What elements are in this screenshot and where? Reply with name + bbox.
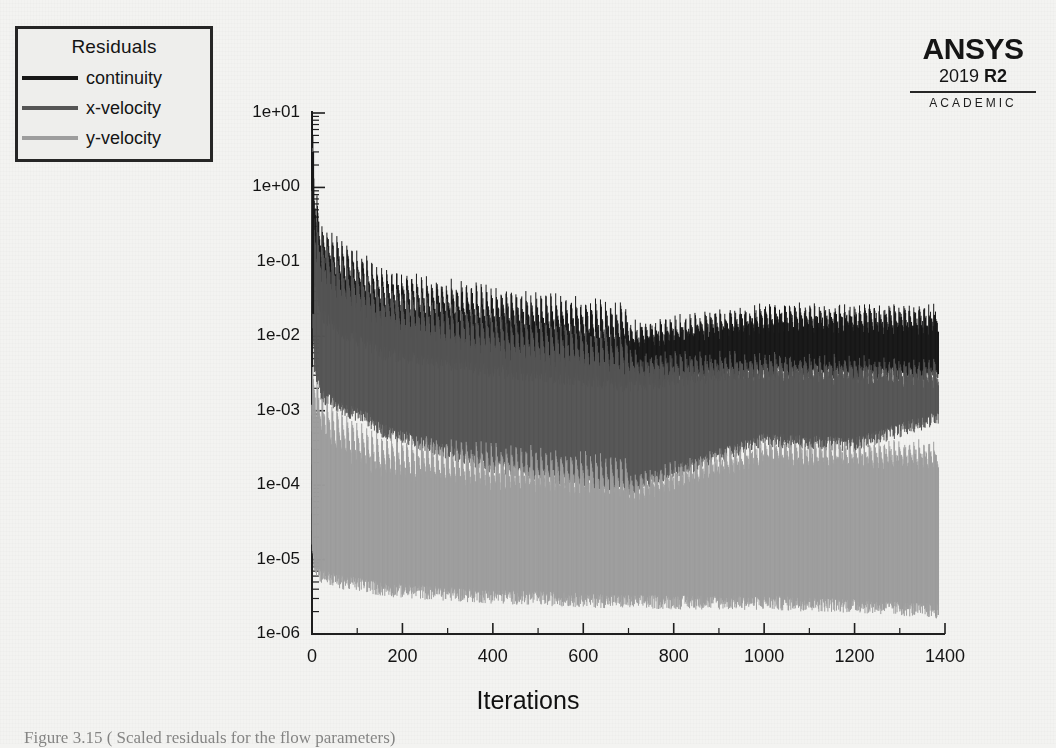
x-axis-title: Iterations [0, 686, 1056, 715]
ansys-release-tag: R2 [984, 66, 1007, 86]
x-tick-label: 200 [367, 646, 437, 667]
y-tick-label: 1e-05 [224, 549, 300, 569]
legend-label-x-velocity: x-velocity [86, 98, 161, 119]
x-tick-label: 1000 [729, 646, 799, 667]
legend-item-continuity[interactable]: continuity [18, 63, 210, 93]
ansys-logo: ANSYS 2019 R2 ACADEMIC [904, 34, 1042, 110]
legend-label-y-velocity: y-velocity [86, 128, 161, 149]
y-tick-label: 1e-04 [224, 474, 300, 494]
ansys-release-year: 2019 [939, 66, 979, 86]
y-tick-label: 1e-02 [224, 325, 300, 345]
y-tick-label: 1e-01 [224, 251, 300, 271]
x-tick-label: 600 [548, 646, 618, 667]
ansys-release: 2019 R2 [904, 65, 1042, 88]
legend-swatch-continuity [22, 76, 78, 80]
x-tick-label: 400 [458, 646, 528, 667]
legend-item-x-velocity[interactable]: x-velocity [18, 93, 210, 123]
y-tick-label: 1e+00 [224, 176, 300, 196]
legend-swatch-x-velocity [22, 106, 78, 110]
y-tick-label: 1e-03 [224, 400, 300, 420]
legend-title: Residuals [18, 36, 210, 58]
y-tick-label: 1e-06 [224, 623, 300, 643]
x-tick-label: 0 [277, 646, 347, 667]
legend-item-y-velocity[interactable]: y-velocity [18, 123, 210, 153]
x-tick-label: 1200 [820, 646, 890, 667]
figure-caption: Figure 3.15 ( Scaled residuals for the f… [24, 728, 1024, 748]
legend-box: Residuals continuity x-velocity y-veloci… [15, 26, 213, 162]
x-tick-label: 800 [639, 646, 709, 667]
y-tick-label: 1e+01 [224, 102, 300, 122]
ansys-divider [910, 91, 1036, 93]
legend-label-continuity: continuity [86, 68, 162, 89]
legend-swatch-y-velocity [22, 136, 78, 140]
ansys-wordmark: ANSYS [904, 34, 1042, 64]
x-tick-label: 1400 [910, 646, 980, 667]
ansys-license-label: ACADEMIC [904, 96, 1042, 110]
